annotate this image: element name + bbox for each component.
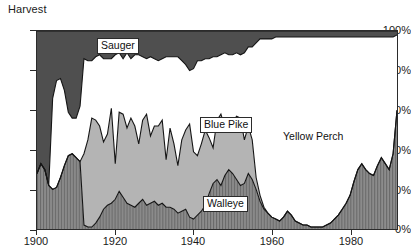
chart-figure: Harvest 100% 80% 60% 40% 20% 0% 1900 192… xyxy=(0,0,411,251)
x-axis-label-1920: 1920 xyxy=(93,235,137,247)
series-label-blue-pike: Blue Pike xyxy=(200,117,252,133)
x-axis-label-1940: 1940 xyxy=(171,235,215,247)
x-axis-label-1960: 1960 xyxy=(250,235,294,247)
series-label-walleye: Walleye xyxy=(203,196,248,212)
x-axis-label-1900: 1900 xyxy=(14,235,58,247)
x-axis-label-1980: 1980 xyxy=(329,235,373,247)
series-label-sauger: Sauger xyxy=(97,38,139,54)
series-label-yellow-perch: Yellow Perch xyxy=(283,130,343,143)
chart-title: Harvest xyxy=(8,3,47,15)
